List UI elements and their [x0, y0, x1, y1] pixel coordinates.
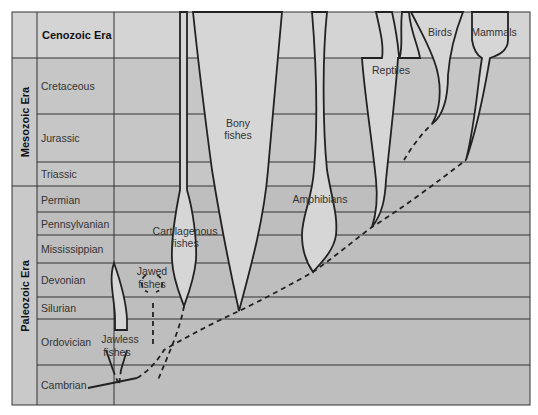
period-label-mississippian: Mississippian — [41, 243, 104, 255]
era-label-paleozoic: Paleozoic Era — [19, 259, 31, 331]
label-reptiles: Reptiles — [372, 64, 410, 76]
label-jawless-fishes-1: Jawless — [101, 333, 138, 345]
label-jawed-fishes-2: fishes — [138, 278, 165, 290]
period-label-triassic: Triassic — [41, 168, 77, 180]
era-label-cenozoic: Cenozoic Era — [42, 29, 113, 41]
label-jawless-fishes-2: fishes — [103, 346, 130, 358]
period-label-cambrian: Cambrian — [41, 379, 87, 391]
evolution-diagram: Cenozoic Era Mesozoic Era Paleozoic Era … — [0, 0, 538, 415]
label-cartilagenous-fishes-2: fishes — [171, 237, 198, 249]
period-label-ordovician: Ordovician — [41, 336, 91, 348]
label-jawed-fishes-1: Jawed — [137, 265, 168, 277]
label-bony-fishes-2: fishes — [224, 129, 251, 141]
label-mammals: Mammals — [471, 26, 517, 38]
label-cartilagenous-fishes-1: Cartilagenous — [153, 225, 218, 237]
period-label-devonian: Devonian — [41, 274, 86, 286]
period-label-cretaceous: Cretaceous — [41, 80, 95, 92]
label-bony-fishes-1: Bony — [226, 117, 251, 129]
period-label-silurian: Silurian — [41, 302, 76, 314]
period-label-jurassic: Jurassic — [41, 132, 80, 144]
label-birds: Birds — [428, 26, 452, 38]
period-label-pennsylvanian: Pennsylvanian — [41, 218, 109, 230]
era-label-mesozoic: Mesozoic Era — [19, 86, 31, 157]
label-amphibians: Amphibians — [293, 193, 348, 205]
period-label-permian: Permian — [41, 194, 80, 206]
